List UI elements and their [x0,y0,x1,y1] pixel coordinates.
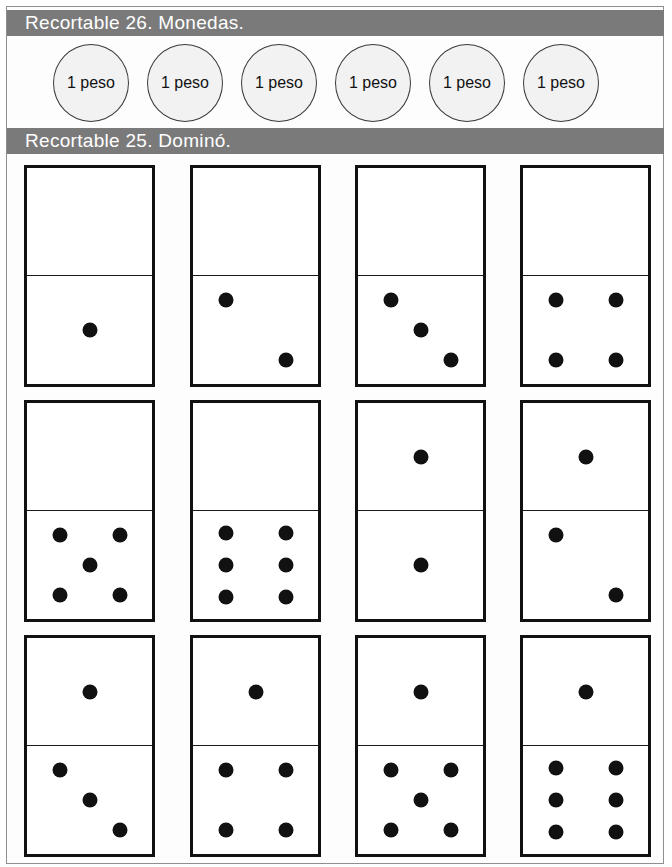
coin-label: 1 peso [148,74,222,92]
coin-label: 1 peso [336,74,410,92]
domino-tile[interactable] [24,635,155,857]
pip-dot [413,323,428,338]
pip-dot [383,292,398,307]
pip-dot [82,323,97,338]
pip-dot [278,558,293,573]
domino-half-bottom [193,511,318,619]
domino-half-top [27,168,152,276]
coin-4[interactable]: 1 peso [335,44,411,122]
coin-5[interactable]: 1 peso [429,44,505,122]
pip-dot [548,292,563,307]
domino-half-bottom [523,746,648,854]
domino-half-bottom [27,511,152,619]
pip-dot [413,793,428,808]
domino-tile[interactable] [190,400,321,622]
domino-tile[interactable] [520,635,651,857]
coin-6[interactable]: 1 peso [523,44,599,122]
section-header-domino: Recortable 25. Dominó. [7,128,664,154]
pip-dot [218,823,233,838]
pip-dot [548,760,563,775]
domino-half-bottom [523,511,648,619]
pip-dot [383,762,398,777]
domino-half-top [193,638,318,746]
domino-half-bottom [358,746,483,854]
pip-dot [278,590,293,605]
pip-dot [218,762,233,777]
domino-tile[interactable] [24,400,155,622]
worksheet-page: Recortable 26. Monedas. 1 peso1 peso1 pe… [0,0,672,867]
domino-half-top [193,168,318,276]
domino-tile[interactable] [520,165,651,387]
pip-dot [52,527,67,542]
domino-tile[interactable] [520,400,651,622]
domino-half-top [523,403,648,511]
domino-half-top [358,403,483,511]
pip-dot [578,684,593,699]
pip-dot [82,558,97,573]
pip-dot [218,558,233,573]
domino-tile[interactable] [355,635,486,857]
domino-half-top [523,638,648,746]
coin-label: 1 peso [54,74,128,92]
pip-dot [383,823,398,838]
pip-dot [218,292,233,307]
pip-dot [112,527,127,542]
section-title-monedas: Recortable 26. Monedas. [25,12,244,34]
domino-tile[interactable] [355,165,486,387]
domino-half-top [358,168,483,276]
pip-dot [82,684,97,699]
pip-dot [248,684,263,699]
pip-dot [413,449,428,464]
pip-dot [578,449,593,464]
pip-dot [112,588,127,603]
pip-dot [278,353,293,368]
coins-row: 1 peso1 peso1 peso1 peso1 peso1 peso [7,38,664,126]
domino-half-top [27,403,152,511]
domino-half-bottom [358,511,483,619]
pip-dot [548,353,563,368]
domino-half-bottom [358,276,483,384]
domino-tile[interactable] [190,635,321,857]
pip-dot [278,823,293,838]
pip-dot [608,588,623,603]
pip-dot [443,353,458,368]
pip-dot [548,793,563,808]
domino-half-top [523,168,648,276]
pip-dot [608,353,623,368]
domino-tile[interactable] [355,400,486,622]
pip-dot [218,590,233,605]
pip-dot [608,825,623,840]
pip-dot [443,823,458,838]
pip-dot [278,762,293,777]
pip-dot [82,793,97,808]
domino-half-top [358,638,483,746]
section-header-monedas: Recortable 26. Monedas. [7,10,664,36]
domino-half-bottom [193,276,318,384]
pip-dot [52,762,67,777]
pip-dot [218,525,233,540]
coin-label: 1 peso [242,74,316,92]
domino-half-bottom [523,276,648,384]
pip-dot [608,760,623,775]
coin-label: 1 peso [524,74,598,92]
pip-dot [548,527,563,542]
pip-dot [413,684,428,699]
pip-dot [278,525,293,540]
pip-dot [548,825,563,840]
pip-dot [112,823,127,838]
pip-dot [608,793,623,808]
coin-label: 1 peso [430,74,504,92]
section-title-domino: Recortable 25. Dominó. [25,130,231,152]
coin-2[interactable]: 1 peso [147,44,223,122]
coin-1[interactable]: 1 peso [53,44,129,122]
coin-3[interactable]: 1 peso [241,44,317,122]
domino-tile[interactable] [190,165,321,387]
domino-half-top [27,638,152,746]
domino-half-top [193,403,318,511]
pip-dot [413,558,428,573]
domino-half-bottom [27,276,152,384]
pip-dot [608,292,623,307]
domino-half-bottom [193,746,318,854]
pip-dot [443,762,458,777]
domino-tile[interactable] [24,165,155,387]
